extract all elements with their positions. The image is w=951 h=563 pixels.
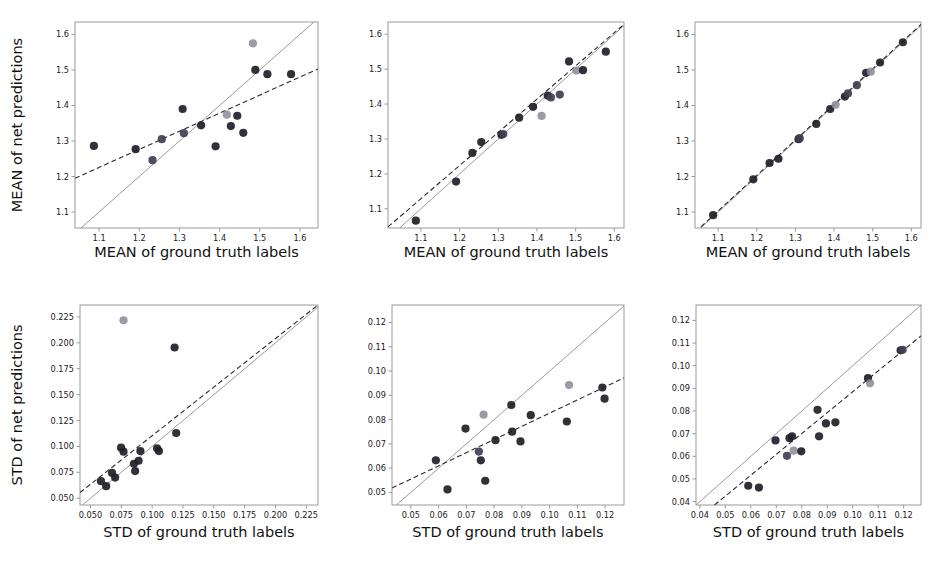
scatter-point <box>479 411 487 419</box>
scatter-point <box>443 485 451 493</box>
x-axis-title: MEAN of ground truth labels <box>706 244 911 260</box>
scatter-point <box>251 66 259 74</box>
x-tick-label: 1.6 <box>293 233 306 243</box>
y-tick-label: 0.09 <box>368 390 386 400</box>
scatter-point <box>598 383 606 391</box>
x-tick-label: 1.4 <box>828 233 841 243</box>
x-tick-label: 1.5 <box>569 233 582 243</box>
data-area <box>75 22 318 228</box>
scatter-point <box>179 105 187 113</box>
y-tick-label: 1.4 <box>56 100 69 110</box>
scatter-point <box>249 39 257 47</box>
scatter-point <box>111 473 119 481</box>
y-tick-label: 1.1 <box>56 207 69 217</box>
scatter-point <box>119 316 127 324</box>
scatter-point <box>565 57 573 65</box>
y-axis-title: MEAN of net predictions <box>9 38 25 212</box>
scatter-point <box>565 381 573 389</box>
scatter-point <box>515 114 523 122</box>
regression-fit-line <box>388 24 624 227</box>
scatter-point <box>516 437 524 445</box>
data-area <box>392 306 624 505</box>
scatter-point <box>600 395 608 403</box>
scatter-point <box>119 448 127 456</box>
scatter-point <box>233 112 241 120</box>
x-tick-label: 0.125 <box>171 510 194 520</box>
data-area <box>695 24 921 232</box>
scatter-point <box>822 419 830 427</box>
scatter-point <box>180 129 188 137</box>
data-area <box>388 24 624 228</box>
scatter-point <box>468 149 476 157</box>
x-tick-label: 0.11 <box>568 510 586 520</box>
y-tick-label: 1.5 <box>369 64 382 74</box>
x-axis-title: MEAN of ground truth labels <box>404 244 609 260</box>
y-tick-label: 0.07 <box>672 429 690 439</box>
x-tick-label: 1.4 <box>213 233 226 243</box>
scatter-point <box>749 175 757 183</box>
x-axis-title: STD of ground truth labels <box>713 524 904 540</box>
plot-frame <box>75 22 318 228</box>
x-tick-label: 0.09 <box>513 510 531 520</box>
y-tick-label: 0.07 <box>368 439 386 449</box>
scatter-point <box>563 417 571 425</box>
y-tick-label: 1.5 <box>56 65 69 75</box>
x-tick-label: 1.1 <box>712 233 725 243</box>
scatter-point <box>547 93 555 101</box>
y-tick-label: 1.2 <box>56 172 69 182</box>
figure-scatter-grid: 1.11.21.31.41.51.61.11.21.31.41.51.6MEAN… <box>0 0 951 563</box>
scatter-point <box>867 68 875 76</box>
scatter-point <box>136 447 144 455</box>
y-axis-title: STD of net predictions <box>9 324 25 485</box>
identity-reference-line <box>400 25 624 228</box>
data-area <box>80 305 318 505</box>
panel-top-middle: 1.11.21.31.41.51.61.11.21.31.41.51.6MEAN… <box>336 0 636 283</box>
scatter-point <box>796 134 804 142</box>
scatter-point <box>815 432 823 440</box>
regression-fit-line <box>80 305 318 493</box>
scatter-point <box>148 156 156 164</box>
y-tick-label: 0.050 <box>51 493 74 503</box>
scatter-point <box>132 145 140 153</box>
scatter-point <box>172 429 180 437</box>
x-tick-label: 0.07 <box>767 510 785 520</box>
scatter-point <box>491 436 499 444</box>
scatter-point <box>102 482 110 490</box>
x-tick-label: 0.075 <box>110 510 133 520</box>
y-tick-label: 1.6 <box>56 29 69 39</box>
scatter-point <box>263 70 271 78</box>
x-axis-title: STD of ground truth labels <box>412 524 603 540</box>
y-tick-label: 0.125 <box>51 416 74 426</box>
x-tick-label: 1.3 <box>789 233 802 243</box>
scatter-point <box>744 482 752 490</box>
data-area <box>696 305 921 520</box>
scatter-point <box>537 112 545 120</box>
scatter-point <box>197 121 205 129</box>
y-tick-label: 1.4 <box>676 100 689 110</box>
y-tick-label: 0.150 <box>51 390 74 400</box>
x-tick-label: 1.5 <box>253 233 266 243</box>
scatter-point <box>475 448 483 456</box>
scatter-point <box>899 38 907 46</box>
x-tick-label: 0.07 <box>457 510 475 520</box>
scatter-point <box>170 343 178 351</box>
scatter-point <box>771 436 779 444</box>
scatter-point <box>789 447 797 455</box>
y-tick-label: 0.08 <box>672 406 690 416</box>
scatter-point <box>90 142 98 150</box>
scatter-point <box>556 91 564 99</box>
panel-bottom-left: 0.0500.0750.1000.1250.1500.1750.2000.225… <box>0 283 330 563</box>
x-tick-label: 0.050 <box>79 510 102 520</box>
scatter-point <box>287 70 295 78</box>
x-tick-label: 0.04 <box>691 510 709 520</box>
x-tick-label: 1.3 <box>492 233 505 243</box>
y-tick-label: 1.2 <box>369 169 382 179</box>
scatter-point <box>832 101 840 109</box>
plot-frame <box>695 22 921 228</box>
scatter-point <box>477 456 485 464</box>
y-tick-label: 0.04 <box>672 497 690 507</box>
scatter-point <box>797 447 805 455</box>
scatter-point <box>602 48 610 56</box>
scatter-point <box>131 467 139 475</box>
scatter-point <box>481 477 489 485</box>
